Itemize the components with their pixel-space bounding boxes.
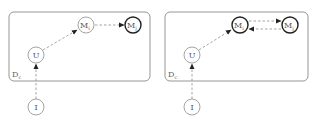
node-mi: Mi (232, 17, 248, 33)
edge-u-to-mi (199, 30, 231, 50)
node-i: I (28, 99, 44, 115)
svg-text:U: U (189, 51, 196, 60)
node-mj: Mj (282, 17, 298, 33)
right-panel: Dc U Mi Mj I (165, 12, 308, 115)
svg-text:U: U (33, 51, 40, 60)
svg-text:I: I (190, 103, 193, 112)
edge-u-to-mi (43, 30, 77, 50)
svg-text:I: I (34, 103, 37, 112)
node-u: U (184, 47, 200, 63)
diagram-canvas: Dc U Mi Mj I Dc U (0, 0, 315, 126)
plate-label: Dc (12, 70, 21, 80)
node-i: I (184, 99, 200, 115)
node-mi: Mi (78, 17, 94, 33)
node-u: U (28, 47, 44, 63)
left-panel: Dc U Mi Mj I (9, 12, 150, 115)
node-mj: Mj (125, 17, 141, 33)
plate-label: Dc (168, 70, 177, 80)
